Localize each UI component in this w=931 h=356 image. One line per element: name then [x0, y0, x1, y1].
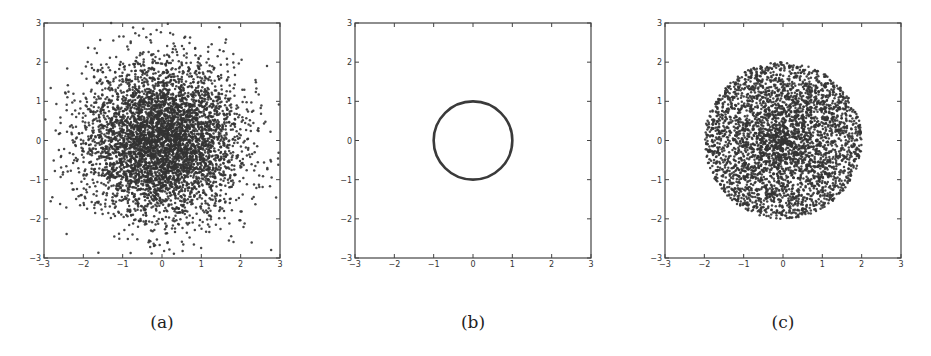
x-tick-label: 3 — [898, 260, 903, 269]
y-tick-label: −2 — [650, 215, 662, 224]
y-tick-label: 3 — [657, 19, 662, 28]
caption-b: (b) — [461, 312, 485, 332]
x-tick-label: 0 — [780, 260, 785, 269]
y-tick-label: 0 — [657, 137, 662, 146]
x-tick-label: 2 — [859, 260, 864, 269]
y-tick-label: −1 — [650, 176, 662, 185]
y-tick-label: 1 — [657, 97, 662, 106]
y-tick-label: 2 — [657, 58, 662, 67]
scatter-plot-disk: −3−2−10123−3−2−10123 — [0, 0, 931, 356]
caption-a: (a) — [150, 312, 173, 332]
caption-c: (c) — [772, 312, 795, 332]
plot-area — [704, 61, 863, 220]
x-tick-label: −2 — [698, 260, 710, 269]
x-tick-label: 1 — [820, 260, 825, 269]
y-tick-label: −3 — [650, 254, 662, 263]
x-tick-label: −1 — [738, 260, 750, 269]
panel-c: −3−2−10123−3−2−10123 — [0, 0, 310, 356]
